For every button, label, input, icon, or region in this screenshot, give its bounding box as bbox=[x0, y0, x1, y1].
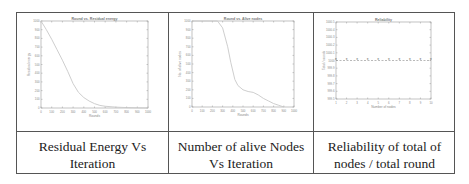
x-tick-label: 900 bbox=[281, 109, 286, 113]
x-tick-label: 200 bbox=[210, 109, 215, 113]
x-tick-label: 8 bbox=[409, 101, 411, 105]
y-axis-label: No. of alive nodes bbox=[178, 51, 182, 77]
y-tick-label: 700 bbox=[186, 45, 191, 49]
x-tick-label: 700 bbox=[114, 110, 119, 114]
y-tick-label: 1000.1 bbox=[326, 51, 335, 55]
y-tick-label: 1000.3 bbox=[326, 35, 335, 39]
x-tick-label: 10 bbox=[429, 101, 433, 105]
x-tick-label: 900 bbox=[135, 110, 140, 114]
x-tick-label: 400 bbox=[81, 110, 86, 114]
x-tick-label: 500 bbox=[92, 110, 97, 114]
y-tick-label: 1000.2 bbox=[326, 43, 335, 47]
x-axis-label: Rounds bbox=[238, 113, 249, 117]
x-tick-label: 800 bbox=[271, 109, 276, 113]
x-tick-label: 1000 bbox=[291, 109, 298, 113]
y-tick-label: 700 bbox=[35, 45, 40, 49]
x-axis-label: Rounds bbox=[89, 114, 100, 118]
x-tick-label: 3 bbox=[356, 101, 358, 105]
x-tick-label: 100 bbox=[200, 109, 205, 113]
chart-residual-energy: 0100200300400500600700800900100001002003… bbox=[0, 0, 469, 184]
y-tick-label: 999.7 bbox=[328, 82, 335, 86]
x-tick-label: 800 bbox=[124, 110, 129, 114]
chart-alive-nodes-plot: 0100200300400500600700800900100001002003… bbox=[178, 17, 298, 118]
x-tick-label: 200 bbox=[60, 110, 65, 114]
data-marker: * bbox=[388, 58, 390, 63]
y-tick-label: 800 bbox=[35, 36, 40, 40]
y-tick-label: 1000 bbox=[184, 19, 191, 23]
y-tick-label: 300 bbox=[35, 80, 40, 84]
data-marker: * bbox=[346, 58, 348, 63]
x-tick-label: 500 bbox=[241, 109, 246, 113]
x-tick-label: 300 bbox=[220, 109, 225, 113]
x-tick-label: 0 bbox=[191, 109, 193, 113]
chart-title: Round vs. Alive nodes bbox=[224, 17, 262, 21]
y-tick-label: 600 bbox=[35, 54, 40, 58]
y-tick-label: 600 bbox=[186, 53, 191, 57]
x-tick-label: 300 bbox=[71, 110, 76, 114]
x-tick-label: 1000 bbox=[145, 110, 152, 114]
chart-reliability-plot: 12345678910999.5999.6999.7999.8999.91000… bbox=[322, 18, 433, 110]
x-tick-label: 6 bbox=[388, 101, 390, 105]
y-tick-label: 900 bbox=[35, 28, 40, 32]
x-tick-label: 9 bbox=[420, 101, 422, 105]
x-tick-label: 400 bbox=[230, 109, 235, 113]
x-tick-label: 700 bbox=[261, 109, 266, 113]
y-tick-label: 500 bbox=[35, 63, 40, 67]
x-tick-label: 600 bbox=[103, 110, 108, 114]
y-tick-label: 1000 bbox=[33, 19, 40, 23]
y-tick-label: 400 bbox=[35, 71, 40, 75]
y-tick-label: 500 bbox=[186, 62, 191, 66]
y-tick-label: 100 bbox=[35, 97, 40, 101]
x-tick-label: 0 bbox=[40, 110, 42, 114]
y-tick-label: 999.8 bbox=[328, 74, 335, 78]
y-tick-label: 999.6 bbox=[328, 89, 335, 93]
y-tick-label: 100 bbox=[186, 96, 191, 100]
y-tick-label: 1000.4 bbox=[326, 28, 335, 32]
chart-title: Round vs. Residual energy bbox=[71, 17, 117, 21]
y-tick-label: 999.9 bbox=[328, 66, 335, 70]
x-tick-label: 600 bbox=[251, 109, 256, 113]
y-tick-label: 200 bbox=[35, 89, 40, 93]
y-tick-label: 800 bbox=[186, 36, 191, 40]
y-tick-label: 200 bbox=[186, 88, 191, 92]
y-tick-label: 400 bbox=[186, 71, 191, 75]
data-marker: * bbox=[430, 58, 432, 63]
data-marker: * bbox=[335, 58, 337, 63]
data-marker: * bbox=[409, 58, 411, 63]
chart-title: Reliability bbox=[375, 18, 392, 22]
y-tick-label: 900 bbox=[186, 28, 191, 32]
x-tick-label: 1 bbox=[335, 101, 337, 105]
x-tick-label: 7 bbox=[399, 101, 401, 105]
chart-residual-energy-plot: 0100200300400500600700800900100001002003… bbox=[27, 17, 152, 119]
y-axis-label: Total / rounds bbox=[322, 51, 326, 71]
plot-area bbox=[41, 21, 148, 108]
y-tick-label: 300 bbox=[186, 79, 191, 83]
data-marker: * bbox=[398, 58, 400, 63]
y-tick-label: 999.5 bbox=[328, 97, 335, 101]
data-marker: * bbox=[377, 58, 379, 63]
x-axis-label: Number of nodes bbox=[371, 105, 396, 109]
x-tick-label: 4 bbox=[367, 101, 369, 105]
data-marker: * bbox=[356, 58, 358, 63]
data-marker: * bbox=[367, 58, 369, 63]
x-tick-label: 5 bbox=[377, 101, 379, 105]
plot-area bbox=[192, 21, 294, 107]
y-tick-label: 1000.5 bbox=[326, 20, 335, 24]
x-tick-label: 100 bbox=[49, 110, 54, 114]
data-marker: * bbox=[420, 58, 422, 63]
y-tick-label: 1000 bbox=[328, 59, 335, 63]
y-axis-label: Residual energy bbox=[27, 53, 31, 76]
x-tick-label: 2 bbox=[346, 101, 348, 105]
